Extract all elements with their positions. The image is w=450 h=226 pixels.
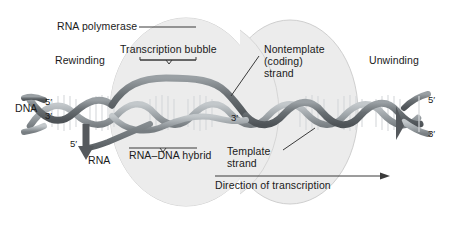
label-nontemplate-strand-line2: (coding) [264,56,303,68]
label-nontemplate-strand-line3: strand [264,68,294,80]
transcription-diagram: RNA polymerase Rewinding Transcription b… [0,0,450,226]
prime-dna-left-top: 5′ [45,96,52,107]
diagram-canvas [0,0,450,226]
label-rna: RNA [88,155,110,167]
label-dna: DNA [15,103,37,115]
label-template-strand-line1: Template [227,146,270,158]
prime-dna-right-top: 5′ [428,94,435,105]
label-rna-polymerase: RNA polymerase [57,21,137,33]
label-rewinding: Rewinding [55,55,105,67]
label-direction-of-transcription: Direction of transcription [215,180,331,192]
prime-dna-left-bottom: 3′ [45,110,52,121]
label-nontemplate-strand-line1: Nontemplate [264,44,325,56]
label-transcription-bubble: Transcription bubble [120,44,217,56]
prime-template-3: 3′ [231,112,238,123]
label-template-strand-line2: strand [227,158,257,170]
prime-rna-5: 5′ [70,138,77,149]
label-rna-dna-hybrid: RNA–DNA hybrid [129,150,212,162]
label-unwinding: Unwinding [369,55,419,67]
prime-dna-right-bottom: 3′ [428,128,435,139]
